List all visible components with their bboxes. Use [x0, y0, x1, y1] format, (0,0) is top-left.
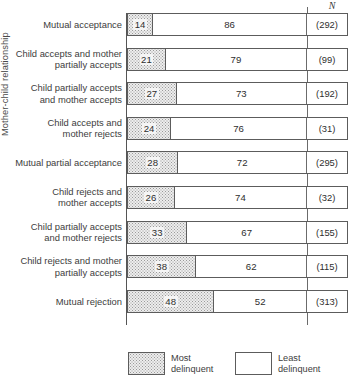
bar-value-most-delinquent: 21	[140, 54, 154, 65]
n-value-cell: (313)	[306, 291, 347, 312]
bar-segment-least-delinquent: 76	[171, 118, 306, 139]
chart-plot-area: N Mutual acceptance1486(292)Child accept…	[0, 0, 356, 330]
bar-segment-most-delinquent: 38	[128, 256, 196, 277]
n-value: (31)	[319, 123, 336, 134]
n-value-cell: (292)	[306, 14, 347, 35]
bar-value-most-delinquent: 38	[155, 261, 169, 272]
stacked-bar: 2476(31)	[127, 117, 348, 140]
bar-segment-least-delinquent: 52	[214, 291, 306, 312]
chart-row: Mutual acceptance1486(292)	[0, 13, 356, 37]
n-value-cell: (192)	[306, 83, 347, 104]
legend-label-most-delinquent: Most delinquent	[171, 352, 213, 375]
stacked-bar: 3367(155)	[127, 221, 348, 244]
bar-segment-least-delinquent: 73	[177, 83, 306, 104]
n-value-cell: (32)	[306, 187, 347, 208]
bar-value-least-delinquent: 79	[231, 54, 242, 65]
bar-value-most-delinquent: 26	[144, 192, 158, 203]
bar-segment-least-delinquent: 62	[196, 256, 306, 277]
n-value: (295)	[316, 157, 338, 168]
chart-legend: Most delinquent Least delinquent	[0, 352, 356, 384]
stacked-bar: 1486(292)	[127, 13, 348, 36]
bar-segment-least-delinquent: 72	[178, 152, 306, 173]
bar-segment-least-delinquent: 74	[175, 187, 306, 208]
chart-row: Mutual partial acceptance2872(295)	[0, 151, 356, 175]
chart-row: Child accepts and mother partially accep…	[0, 48, 356, 72]
category-label: Mutual acceptance	[10, 19, 122, 30]
stacked-bar: 4852(313)	[127, 290, 348, 313]
chart-row: Child rejects and mother accepts2674(32)	[0, 186, 356, 210]
category-label: Mutual partial acceptance	[10, 157, 122, 168]
bar-value-least-delinquent: 86	[224, 19, 235, 30]
n-value: (99)	[319, 54, 336, 65]
stacked-bar: 2674(32)	[127, 186, 348, 209]
category-label: Child rejects and mother accepts	[10, 186, 122, 209]
bar-value-most-delinquent: 33	[150, 227, 164, 238]
n-value: (155)	[316, 227, 338, 238]
bar-segment-most-delinquent: 28	[128, 152, 178, 173]
category-label: Child accepts and mother rejects	[10, 117, 122, 140]
category-label: Child partially accepts and mother accep…	[10, 82, 122, 105]
bar-segment-most-delinquent: 26	[128, 187, 175, 208]
legend-swatch-least-delinquent-icon	[235, 352, 272, 375]
n-value-cell: (155)	[306, 222, 347, 243]
bar-segment-least-delinquent: 79	[166, 49, 306, 70]
n-value: (115)	[316, 261, 337, 272]
legend-label-least-delinquent: Least delinquent	[278, 352, 320, 375]
bar-value-least-delinquent: 67	[241, 227, 252, 238]
bar-value-most-delinquent: 14	[133, 19, 147, 30]
bar-value-least-delinquent: 62	[246, 261, 257, 272]
n-value: (292)	[316, 19, 338, 30]
category-label: Child partially accepts and mother rejec…	[10, 221, 122, 244]
n-value-cell: (295)	[306, 152, 347, 173]
bar-value-least-delinquent: 76	[233, 123, 244, 134]
chart-row: Mutual rejection4852(313)	[0, 290, 356, 314]
bar-value-least-delinquent: 73	[236, 88, 247, 99]
legend-swatch-most-delinquent-icon	[128, 352, 165, 375]
bar-value-most-delinquent: 28	[146, 157, 160, 168]
bar-segment-most-delinquent: 21	[128, 49, 166, 70]
category-label: Child accepts and mother partially accep…	[10, 48, 122, 71]
n-value-cell: (99)	[306, 49, 347, 70]
bar-value-most-delinquent: 24	[142, 123, 156, 134]
stacked-bar: 2872(295)	[127, 151, 348, 174]
n-value-cell: (115)	[306, 256, 347, 277]
chart-row: Child partially accepts and mother accep…	[0, 82, 356, 106]
n-value-cell: (31)	[306, 118, 347, 139]
stacked-bar: 3862(115)	[127, 255, 348, 278]
bar-value-most-delinquent: 48	[164, 296, 178, 307]
bar-segment-most-delinquent: 27	[128, 83, 177, 104]
bar-value-least-delinquent: 74	[235, 192, 246, 203]
bar-segment-most-delinquent: 14	[128, 14, 153, 35]
bar-segment-least-delinquent: 86	[153, 14, 306, 35]
stacked-bar: 2773(192)	[127, 82, 348, 105]
chart-row: Child partially accepts and mother rejec…	[0, 221, 356, 245]
bar-value-most-delinquent: 27	[145, 88, 159, 99]
bar-value-least-delinquent: 72	[237, 157, 248, 168]
bar-segment-least-delinquent: 67	[187, 222, 306, 243]
legend-item-most-delinquent: Most delinquent	[128, 352, 213, 375]
n-value: (32)	[319, 192, 336, 203]
category-label: Child rejects and mother partially accep…	[10, 255, 122, 278]
bar-segment-most-delinquent: 48	[128, 291, 214, 312]
bar-segment-most-delinquent: 24	[128, 118, 171, 139]
bar-segment-most-delinquent: 33	[128, 222, 187, 243]
n-column-header: N	[311, 0, 353, 11]
bar-value-least-delinquent: 52	[255, 296, 266, 307]
stacked-bar: 2179(99)	[127, 48, 348, 71]
chart-row: Child accepts and mother rejects2476(31)	[0, 117, 356, 141]
category-label: Mutual rejection	[10, 296, 122, 307]
n-value: (192)	[316, 88, 338, 99]
legend-item-least-delinquent: Least delinquent	[235, 352, 320, 375]
chart-row: Child rejects and mother partially accep…	[0, 255, 356, 279]
n-value: (313)	[316, 296, 338, 307]
